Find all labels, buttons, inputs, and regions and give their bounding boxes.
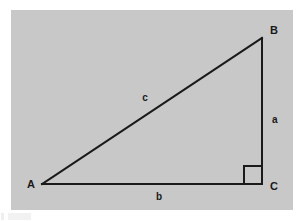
page-edge-artifact xyxy=(1,213,35,220)
vertex-label-a: A xyxy=(27,178,35,190)
vertex-label-c: C xyxy=(270,180,278,192)
side-label-a: a xyxy=(272,114,278,125)
figure-root: A B C a b c xyxy=(0,0,303,221)
side-label-b: b xyxy=(156,191,162,202)
right-triangle-figure: A B C a b c xyxy=(0,0,303,221)
vertex-label-b: B xyxy=(270,24,278,36)
side-label-c: c xyxy=(142,92,148,103)
